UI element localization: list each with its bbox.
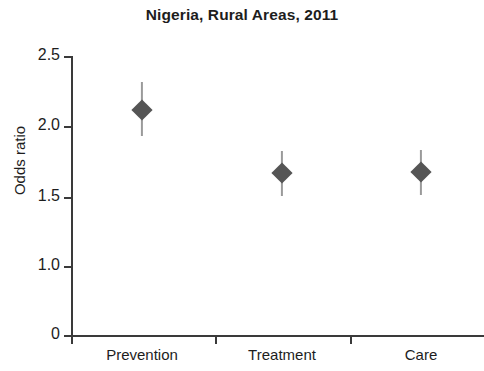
data-point-marker (131, 99, 152, 120)
y-tick-label-wrap: 0 (8, 325, 60, 345)
x-tick-mark (215, 335, 217, 344)
x-axis-line (71, 335, 484, 337)
y-tick-label: 1.0 (16, 256, 60, 274)
y-tick-label: 0 (16, 325, 60, 343)
y-tick-label: 2.0 (16, 116, 60, 134)
data-point-marker (410, 161, 431, 182)
x-tick-mark (350, 335, 352, 344)
y-tick-label: 1.5 (16, 187, 60, 205)
y-tick-label-wrap: 2.5 (8, 46, 60, 66)
x-category-label: Treatment (248, 346, 316, 363)
y-axis-line (71, 56, 73, 336)
chart-title: Nigeria, Rural Areas, 2011 (0, 6, 484, 24)
y-tick-mark (64, 56, 72, 58)
y-tick-mark (64, 126, 72, 128)
y-tick-label-wrap: 1.0 (8, 256, 60, 276)
y-tick-label-wrap: 2.0 (8, 116, 60, 136)
x-category-label: Care (405, 346, 438, 363)
x-category-label: Prevention (106, 346, 178, 363)
y-tick-mark (64, 266, 72, 268)
y-tick-label: 2.5 (16, 46, 60, 64)
x-tick-mark (71, 335, 73, 344)
y-tick-mark (64, 197, 72, 199)
chart-container: Nigeria, Rural Areas, 2011 Odds ratio 2.… (0, 0, 484, 371)
data-point-marker (271, 162, 292, 183)
y-tick-label-wrap: 1.5 (8, 187, 60, 207)
